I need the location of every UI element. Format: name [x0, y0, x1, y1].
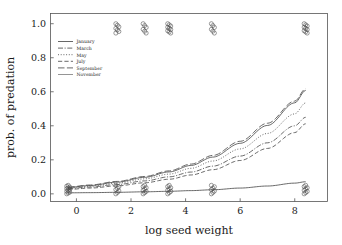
- figure-canvas: 024680.00.20.40.60.81.0log seed weightpr…: [0, 0, 342, 245]
- scatter-cluster-top: [114, 22, 121, 35]
- legend-label-november: November: [77, 72, 102, 77]
- y-tick-label: 0.0: [31, 188, 46, 199]
- scatter-cluster-top: [141, 22, 148, 35]
- legend-label-january: January: [76, 39, 95, 45]
- scatter-cluster-top: [302, 22, 309, 35]
- legend-label-september: September: [77, 66, 103, 71]
- scatter-cluster-bottom: [141, 183, 148, 196]
- y-tick-label: 1.0: [31, 18, 46, 29]
- series-curve-may: [68, 103, 305, 188]
- y-tick-label: 0.4: [31, 120, 46, 131]
- x-tick-label: 0: [73, 205, 79, 216]
- x-axis-label: log seed weight: [145, 224, 233, 237]
- legend-label-may: May: [77, 53, 87, 59]
- scatter-cluster-bottom: [302, 183, 309, 196]
- scatter-cluster-bottom: [166, 183, 173, 196]
- scatter-cluster-top: [166, 22, 173, 35]
- series-curve-july: [68, 124, 305, 190]
- legend-label-march: March: [77, 46, 92, 51]
- legend-label-july: July: [76, 59, 86, 65]
- series-curve-november: [68, 90, 305, 187]
- x-tick-label: 4: [183, 205, 189, 216]
- y-tick-label: 0.6: [31, 86, 46, 97]
- scatter-cluster-top: [209, 22, 216, 35]
- y-tick-label: 0.8: [31, 52, 46, 63]
- x-tick-label: 6: [237, 205, 243, 216]
- series-curve-september: [68, 89, 305, 187]
- y-tick-label: 0.2: [31, 154, 46, 165]
- scatter-cluster-bottom: [114, 183, 121, 196]
- x-tick-label: 2: [128, 205, 134, 216]
- predation-probability-chart: 024680.00.20.40.60.81.0log seed weightpr…: [0, 0, 342, 245]
- series-curve-march: [68, 117, 305, 188]
- x-tick-label: 8: [292, 205, 298, 216]
- y-axis-label: prob. of predation: [4, 57, 17, 158]
